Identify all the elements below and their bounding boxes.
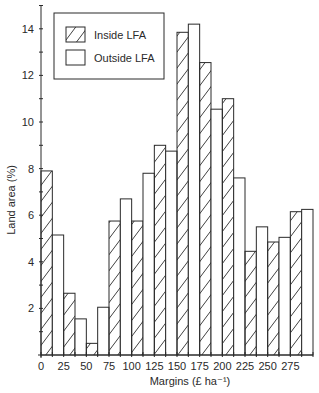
bar-inside-lfa	[290, 212, 301, 355]
y-axis: 2468101214	[22, 5, 43, 358]
x-tick-label: 50	[80, 360, 92, 372]
bar-outside-lfa	[279, 237, 290, 355]
x-tick-label: 275	[281, 360, 299, 372]
x-tick-label: 75	[103, 360, 115, 372]
bar-outside-lfa	[302, 209, 313, 355]
bar-inside-lfa	[41, 171, 52, 355]
y-tick-label: 8	[28, 163, 34, 175]
bar-outside-lfa	[98, 307, 109, 355]
y-tick-label: 6	[28, 209, 34, 221]
bar-inside-lfa	[86, 343, 97, 355]
bar-inside-lfa	[64, 293, 75, 355]
bar-outside-lfa	[188, 24, 199, 355]
bar-inside-lfa	[154, 145, 165, 355]
x-axis: 0255075100125150175200225250275	[38, 352, 313, 372]
bar-inside-lfa	[200, 63, 211, 355]
x-tick-label: 200	[213, 360, 231, 372]
bar-outside-lfa	[143, 173, 154, 355]
legend-label-outside-lfa: Outside LFA	[94, 52, 155, 64]
x-tick-label: 0	[38, 360, 44, 372]
y-axis-title: Land area (%)	[5, 165, 17, 235]
x-tick-label: 25	[58, 360, 70, 372]
bar-outside-lfa	[52, 235, 63, 355]
y-tick-label: 14	[22, 23, 34, 35]
bar-outside-lfa	[120, 199, 131, 355]
x-tick-label: 100	[122, 360, 140, 372]
y-tick-label: 10	[22, 116, 34, 128]
histogram-chart: 2468101214 02550751001251501752002252502…	[0, 0, 319, 393]
legend-box	[54, 13, 164, 79]
bar-outside-lfa	[256, 227, 267, 355]
legend-label-inside-lfa: Inside LFA	[94, 29, 147, 41]
bar-inside-lfa	[177, 32, 188, 355]
x-tick-label: 175	[190, 360, 208, 372]
x-tick-label: 225	[236, 360, 254, 372]
bar-outside-lfa	[211, 109, 222, 355]
x-axis-title: Margins (£ ha⁻¹)	[150, 375, 231, 387]
legend-swatch-inside-lfa	[66, 27, 85, 42]
bar-outside-lfa	[234, 178, 245, 355]
x-tick-label: 250	[258, 360, 276, 372]
y-tick-label: 4	[28, 256, 34, 268]
bar-inside-lfa	[245, 251, 256, 355]
y-tick-label: 12	[22, 69, 34, 81]
x-tick-label: 150	[168, 360, 186, 372]
bar-inside-lfa	[268, 242, 279, 355]
bar-outside-lfa	[75, 319, 86, 355]
legend: Inside LFA Outside LFA	[54, 13, 164, 79]
bar-inside-lfa	[222, 99, 233, 355]
x-tick-label: 125	[145, 360, 163, 372]
bar-inside-lfa	[132, 221, 143, 355]
legend-swatch-outside-lfa	[66, 50, 85, 65]
y-tick-label: 2	[28, 302, 34, 314]
bar-inside-lfa	[109, 221, 120, 355]
bar-outside-lfa	[166, 151, 177, 355]
